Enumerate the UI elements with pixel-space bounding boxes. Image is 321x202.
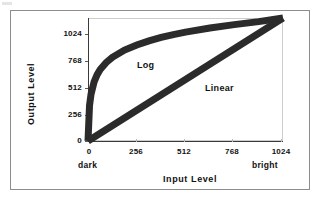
y-tick-label: 1024 [52,29,82,38]
x-axis-title: Input Level [130,174,250,184]
series-linear-line [88,18,283,141]
y-axis-title: Output Level [26,63,36,125]
x-axis-high-label: bright [252,160,278,170]
series-label-log: Log [137,60,154,70]
x-tick-label: 512 [167,147,201,156]
y-tick-label: 768 [52,56,82,65]
data-curves [88,18,283,141]
x-tick-label: 256 [119,147,153,156]
scan-artifact [2,2,12,5]
x-tick-label: 0 [72,147,106,156]
x-tick-label: 1024 [264,147,298,156]
series-label-linear: Linear [205,83,234,93]
x-axis-line [88,141,283,142]
y-tick-label: 256 [52,110,82,119]
y-tick-label: 512 [52,83,82,92]
x-axis-low-label: dark [78,160,97,170]
x-tick-label: 768 [215,147,249,156]
y-tick-label: 0 [52,136,82,145]
y-tick-mark [85,141,88,142]
figure: 1024 768 512 256 0 0 256 512 768 1024 da… [0,0,321,202]
